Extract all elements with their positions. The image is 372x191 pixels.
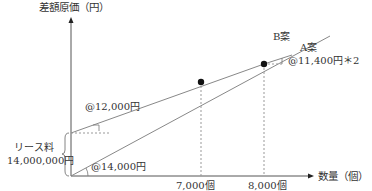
lease-label: リース料: [14, 142, 54, 153]
tick-7000: 7,000個: [176, 180, 215, 191]
slope-a-after-label: @11,400円＊2: [288, 55, 359, 66]
x-axis-arrow-icon: [308, 174, 314, 179]
kink-point: [261, 61, 267, 67]
line-a: [71, 55, 292, 133]
slope-marker-a: [93, 125, 99, 131]
angle-arc-b: [86, 168, 88, 176]
series-b-label: B案: [273, 31, 290, 42]
lease-value: 14,000,000円: [7, 155, 74, 166]
x-axis-label: 数量（個）: [318, 171, 368, 182]
slope-b-label: @14,000円: [91, 161, 146, 172]
series-a-label: A案: [300, 42, 317, 53]
intersection-point: [198, 79, 204, 85]
y-axis-label: 差額原価（円）: [39, 2, 109, 13]
slope-a-label: @12,000円: [85, 101, 140, 112]
y-axis-arrow-icon: [69, 17, 74, 23]
tick-8000: 8,000個: [248, 180, 287, 191]
